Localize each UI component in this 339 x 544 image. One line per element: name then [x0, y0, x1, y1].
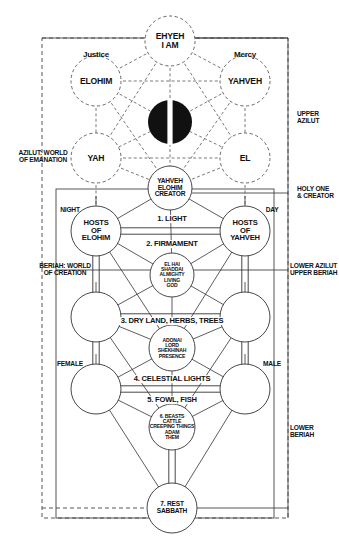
node-right3 — [220, 364, 270, 414]
node-netzah — [220, 206, 270, 256]
node-beasts — [149, 404, 195, 450]
tree-svg — [0, 0, 339, 544]
node-hesed — [220, 133, 270, 183]
node-daat — [148, 99, 192, 145]
node-tiferet1 — [148, 166, 192, 210]
node-rest — [147, 483, 197, 533]
node-left3 — [71, 364, 121, 414]
nodes-layer — [71, 16, 270, 533]
node-daat-gap — [167, 99, 172, 145]
node-hod — [71, 206, 121, 256]
node-yesod1 — [150, 253, 194, 297]
node-hokhmah — [220, 56, 270, 106]
node-keter — [145, 16, 195, 66]
node-left2 — [71, 292, 121, 342]
node-binah — [71, 56, 121, 106]
node-gevurah — [71, 133, 121, 183]
tree-of-life-diagram: EHYEH I AMELOHIMYAHVEHYAHELYAHVEH ELOHIM… — [0, 0, 339, 544]
node-right2 — [220, 292, 270, 342]
node-malkhut1 — [149, 325, 195, 371]
